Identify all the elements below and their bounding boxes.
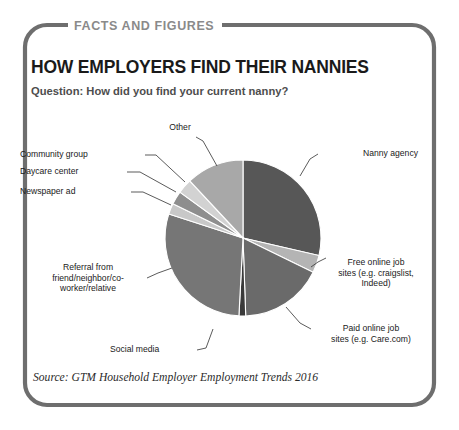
page-title: HOW EMPLOYERS FIND THEIR NANNIES	[31, 57, 369, 78]
pie-label-newspaper-ad: Newspaper ad	[20, 186, 128, 197]
pie-label-referral: Referral from friend/neighbor/co- worker…	[32, 262, 144, 294]
facts-and-figures-card: FACTS AND FIGURES HOW EMPLOYERS FIND THE…	[0, 0, 459, 430]
pie-label-daycare-center: Daycare center	[20, 166, 124, 177]
pie-slices	[165, 160, 321, 316]
pie-label-other: Other	[150, 122, 210, 133]
pie-label-paid-online-job-sites: Paid online job sites (e.g. Care.com)	[316, 323, 426, 344]
source-citation: Source: GTM Household Employer Employmen…	[33, 371, 318, 384]
pie-label-nanny-agency: Nanny agency	[322, 148, 418, 159]
pie-label-social-media: Social media	[110, 344, 194, 355]
pie-chart: Other Community group Daycare center New…	[0, 110, 459, 365]
pie-label-community-group: Community group	[20, 149, 142, 160]
pie-label-free-online-job-sites: Free online job sites (e.g. craigslist, …	[326, 257, 426, 289]
survey-question: Question: How did you find your current …	[31, 85, 288, 97]
card-kicker: FACTS AND FIGURES	[74, 19, 214, 34]
